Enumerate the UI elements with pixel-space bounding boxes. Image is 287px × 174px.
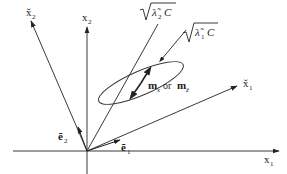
x2-axis-label: x 2 xyxy=(82,11,92,26)
e2-vector xyxy=(78,127,87,151)
svg-text:1: 1 xyxy=(249,84,253,92)
mean-label: m x or m ž xyxy=(148,79,189,94)
svg-text:ẽ: ẽ xyxy=(58,130,63,142)
x1-axis-label: x 1 xyxy=(264,153,274,168)
e2-label: ẽ 2 xyxy=(58,130,68,145)
svg-text:m: m xyxy=(148,79,157,91)
svg-text:or: or xyxy=(163,80,172,91)
e1-label: ẽ 1 xyxy=(121,141,131,156)
lambda1-half-axis-arrow xyxy=(132,83,141,96)
x2-rotated-axis-label: x̌ 2 xyxy=(26,6,36,21)
x1-rotated-axis xyxy=(87,86,237,151)
svg-text:ẽ: ẽ xyxy=(121,141,126,153)
svg-text:C: C xyxy=(207,26,215,38)
lambda1-pointer-line xyxy=(161,30,186,60)
svg-text:1: 1 xyxy=(201,33,205,41)
svg-text:1: 1 xyxy=(270,160,274,168)
x1-rotated-axis-label: x̌ 1 xyxy=(243,77,253,92)
svg-text:C: C xyxy=(164,6,172,18)
svg-text:m: m xyxy=(177,79,186,91)
sqrt-lambda1-label: λ̃ 1 C xyxy=(183,23,218,42)
svg-text:ž: ž xyxy=(185,86,189,94)
sqrt-lambda2-label: λ̃ 2 C xyxy=(140,3,176,21)
diagram-canvas: x 1 x 2 x̌ 2 x̌ 1 ẽ 2 ẽ 1 λ̃ 2 C λ̃ 1 C … xyxy=(0,0,287,174)
svg-text:2: 2 xyxy=(158,13,162,21)
svg-text:2: 2 xyxy=(64,137,68,145)
svg-text:1: 1 xyxy=(127,148,131,156)
svg-text:2: 2 xyxy=(88,18,92,26)
svg-text:2: 2 xyxy=(32,13,36,21)
